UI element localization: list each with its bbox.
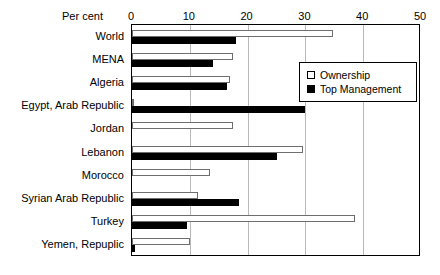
x-tick-label-0: 0	[128, 10, 134, 23]
hollow-square-icon	[307, 71, 315, 79]
y-axis-label-7: Morocco	[82, 169, 124, 181]
y-axis-label-4: Egypt, Arab Republic	[21, 99, 124, 111]
filled-square-icon	[307, 85, 315, 93]
bar-ownership-9	[132, 215, 355, 222]
legend-item-top-management: Top Management	[307, 82, 410, 96]
bar-ownership-7	[132, 169, 210, 176]
x-axis-tick-labels: 01020304050	[0, 10, 440, 24]
bar-ownership-2	[132, 53, 233, 60]
x-tick-label-40: 40	[356, 10, 368, 23]
chart-legend: Ownership Top Management	[299, 62, 417, 102]
bar-ownership-3	[132, 76, 230, 83]
y-axis-label-6: Lebanon	[81, 146, 124, 158]
bar-top-management-6	[132, 153, 277, 160]
y-axis-label-5: Jordan	[90, 122, 124, 134]
bar-ownership-1	[132, 30, 333, 37]
x-tick-label-30: 30	[298, 10, 310, 23]
legend-label-ownership: Ownership	[320, 68, 370, 82]
y-axis-label-1: World	[95, 30, 124, 42]
bar-top-management-10	[132, 245, 135, 252]
bar-ownership-10	[132, 238, 190, 245]
chart-container: Per cent 01020304050 WorldMENAAlgeriaEgy…	[0, 0, 440, 275]
bar-ownership-5	[132, 122, 233, 129]
bar-ownership-4	[132, 99, 134, 106]
plot-area	[131, 24, 420, 256]
y-axis-label-10: Yemen, Repuplic	[41, 238, 124, 250]
bar-top-management-1	[132, 37, 236, 44]
legend-item-ownership: Ownership	[307, 68, 410, 82]
y-axis-category-labels: WorldMENAAlgeriaEgypt, Arab RepublicJord…	[0, 24, 128, 256]
bar-top-management-2	[132, 60, 213, 67]
bar-top-management-3	[132, 83, 227, 90]
x-tick-label-50: 50	[414, 10, 426, 23]
x-tick-label-10: 10	[183, 10, 195, 23]
x-tick-label-20: 20	[240, 10, 252, 23]
y-axis-label-3: Algeria	[90, 76, 124, 88]
gridline-40	[363, 25, 364, 255]
legend-label-top-management: Top Management	[320, 82, 401, 96]
y-axis-label-2: MENA	[92, 53, 124, 65]
bar-top-management-8	[132, 199, 239, 206]
y-axis-label-9: Turkey	[91, 215, 124, 227]
bar-top-management-9	[132, 222, 187, 229]
bar-ownership-8	[132, 192, 198, 199]
bar-ownership-6	[132, 146, 303, 153]
bar-top-management-4	[132, 106, 305, 113]
y-axis-label-8: Syrian Arab Republic	[21, 192, 124, 204]
